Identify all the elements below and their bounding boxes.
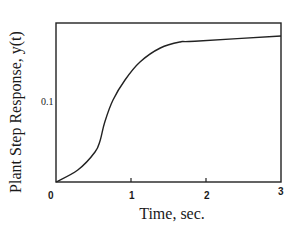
x-tick-label-2: 2 — [204, 190, 210, 201]
step-response-curve — [56, 36, 281, 182]
y-tick-label-0-1: 0.1 — [41, 96, 54, 107]
x-tick-label-1: 1 — [129, 190, 135, 201]
x-tick-label-0: 0 — [48, 190, 54, 201]
step-response-chart — [0, 0, 297, 237]
x-tick-label-3: 3 — [278, 186, 284, 197]
y-axis-label: Plant Step Response, y(t) — [6, 17, 26, 207]
x-axis-label: Time, sec. — [112, 204, 232, 224]
